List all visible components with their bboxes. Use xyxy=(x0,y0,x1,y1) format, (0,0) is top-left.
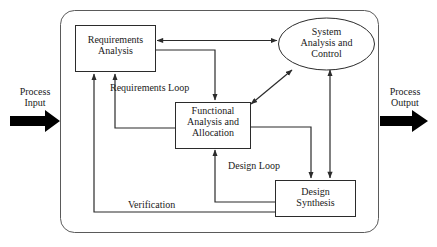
requirements-loop-label: Requirements Loop xyxy=(110,82,215,93)
functional-analysis-label-line3: Allocation xyxy=(175,127,251,138)
functional-analysis-label-line1: Functional xyxy=(175,105,251,116)
system-analysis-control-label: System Analysis and Control xyxy=(279,26,374,60)
process-output-label: Process Output xyxy=(376,86,434,108)
system-analysis-control-label-line2: Analysis and xyxy=(279,37,374,48)
process-output-label-line1: Process xyxy=(376,86,434,97)
design-loop-label: Design Loop xyxy=(228,160,308,171)
verification-label: Verification xyxy=(128,199,208,210)
design-synthesis-label-line1: Design xyxy=(275,186,356,197)
process-input-arrow xyxy=(10,110,60,132)
system-analysis-control-label-line1: System xyxy=(279,26,374,37)
diagram-canvas: Requirements Analysis System Analysis an… xyxy=(0,0,437,247)
functional-analysis-label-line2: Analysis and xyxy=(175,116,251,127)
process-input-label: Process Input xyxy=(6,86,64,108)
requirements-analysis-label: Requirements Analysis xyxy=(75,34,156,56)
design-synthesis-label: Design Synthesis xyxy=(275,186,356,208)
process-input-label-line1: Process xyxy=(6,86,64,97)
system-analysis-control-label-line3: Control xyxy=(279,48,374,59)
process-output-arrow xyxy=(380,110,428,132)
functional-analysis-label: Functional Analysis and Allocation xyxy=(175,105,251,139)
process-input-label-line2: Input xyxy=(6,97,64,108)
design-synthesis-label-line2: Synthesis xyxy=(275,197,356,208)
process-output-label-line2: Output xyxy=(376,97,434,108)
requirements-analysis-label-line1: Requirements xyxy=(75,34,156,45)
requirements-analysis-label-line2: Analysis xyxy=(75,45,156,56)
